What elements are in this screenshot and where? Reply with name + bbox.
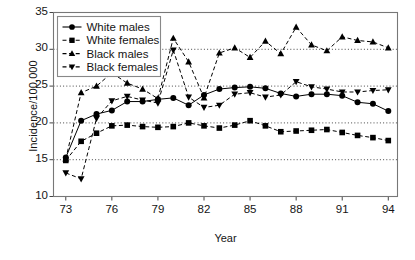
data-point [124,122,130,128]
data-point [324,127,330,133]
legend: White malesWhite femalesBlack malesBlack… [58,17,161,77]
data-point [185,95,192,101]
legend-label: White males [87,21,151,33]
data-point [170,124,176,130]
data-point [78,118,84,124]
data-point [309,91,315,97]
legend-label: White females [87,34,160,46]
data-point [155,125,161,131]
data-point [247,118,253,124]
data-point [355,99,361,105]
data-point [185,58,192,64]
data-point [308,41,315,47]
data-point [232,85,238,91]
data-point [262,95,269,101]
data-point [323,86,330,92]
data-point [339,33,346,39]
data-point [247,84,253,90]
data-point [293,24,300,30]
data-point [217,125,223,131]
data-point [231,44,238,50]
data-point [232,122,238,128]
chart-figure: Incidence/100,000 Year 101520253035 7376… [0,0,415,260]
data-point [109,107,115,113]
data-point [309,127,315,133]
data-point [216,86,222,92]
legend-label: Black males [87,48,149,60]
data-point [263,123,269,129]
data-point [339,130,345,136]
data-point [201,123,207,129]
data-point [78,89,85,95]
data-point [69,24,75,30]
data-point [170,35,177,41]
data-point [231,92,238,98]
data-point [93,116,100,122]
data-point [78,139,84,145]
plot-canvas: White malesWhite femalesBlack malesBlack… [0,0,415,260]
data-point [262,85,268,91]
legend-label: Black females [87,61,159,73]
data-point [354,89,361,95]
data-point [385,138,391,144]
data-point [155,100,162,106]
data-point [109,123,115,129]
data-point [170,95,176,101]
series-0 [63,84,392,161]
data-point [108,98,115,104]
data-point [370,101,376,107]
data-point [78,176,85,182]
data-point [186,120,192,126]
data-point [170,47,177,53]
data-point [355,133,361,139]
data-point [201,105,208,111]
data-point [277,50,284,56]
data-point [124,80,131,86]
data-point [186,102,192,108]
data-point [293,128,299,134]
data-point [385,108,391,114]
data-point [140,124,146,130]
data-point [69,38,74,43]
data-point [370,135,376,141]
data-point [293,93,299,99]
series-1 [63,118,391,163]
data-point [262,38,269,44]
data-point [94,130,100,136]
data-point [278,129,284,135]
